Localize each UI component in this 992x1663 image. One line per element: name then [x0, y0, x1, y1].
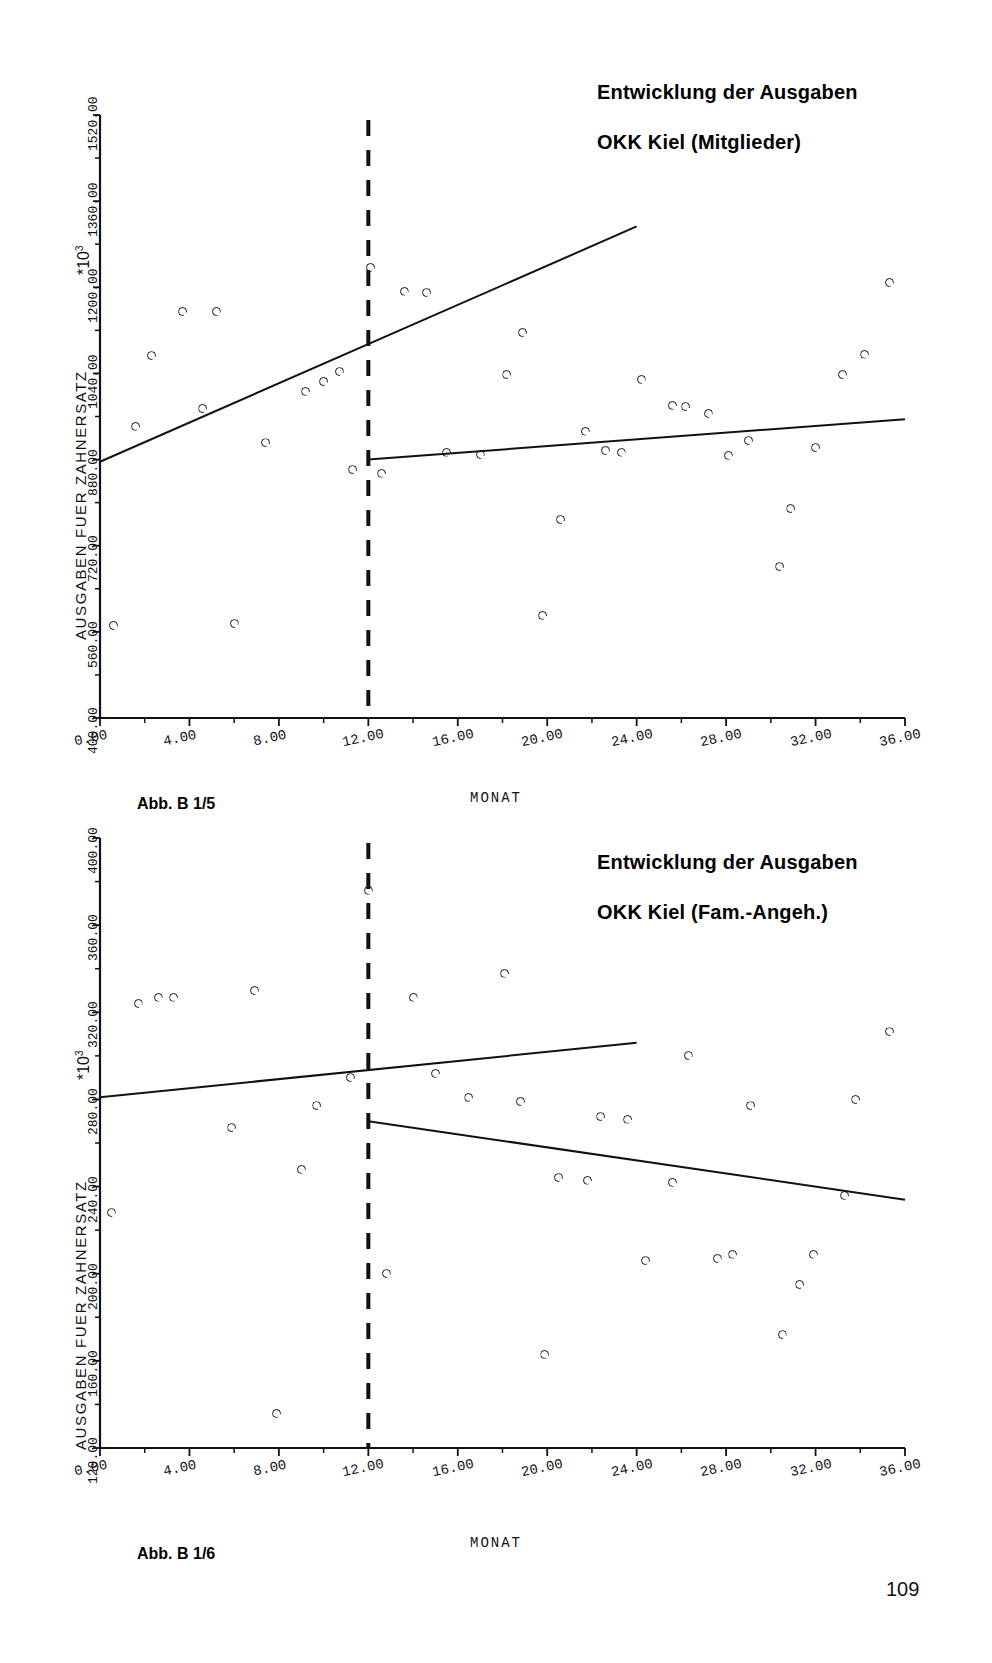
chart-mitglieder: Entwicklung der Ausgaben OKK Kiel (Mitgl… [0, 0, 992, 830]
plot-area-2 [0, 830, 992, 1620]
y-tick-label: 880.00 [86, 449, 101, 496]
y-tick-label: 560.00 [86, 621, 101, 668]
y-tick-label: 200.00 [86, 1263, 101, 1310]
page: Entwicklung der Ausgaben OKK Kiel (Mitgl… [0, 0, 992, 1663]
y-tick-label: 280.00 [86, 1089, 101, 1136]
y-tick-label: 1200.00 [86, 269, 101, 324]
y-tick-label: 400.00 [86, 827, 101, 874]
y-tick-label: 720.00 [86, 535, 101, 582]
y-tick-label: 1520.00 [86, 96, 101, 151]
y-tick-label: 320.00 [86, 1001, 101, 1048]
y-tick-label: 240.00 [86, 1176, 101, 1223]
y-tick-label: 1360.00 [86, 183, 101, 238]
chart-fam-angeh: Entwicklung der Ausgaben OKK Kiel (Fam.-… [0, 830, 992, 1620]
plot-area-1 [0, 0, 992, 830]
y-tick-label: 1040.00 [86, 355, 101, 410]
y-tick-label: 360.00 [86, 914, 101, 961]
page-number: 109 [886, 1578, 919, 1601]
y-tick-label: 160.00 [86, 1350, 101, 1397]
